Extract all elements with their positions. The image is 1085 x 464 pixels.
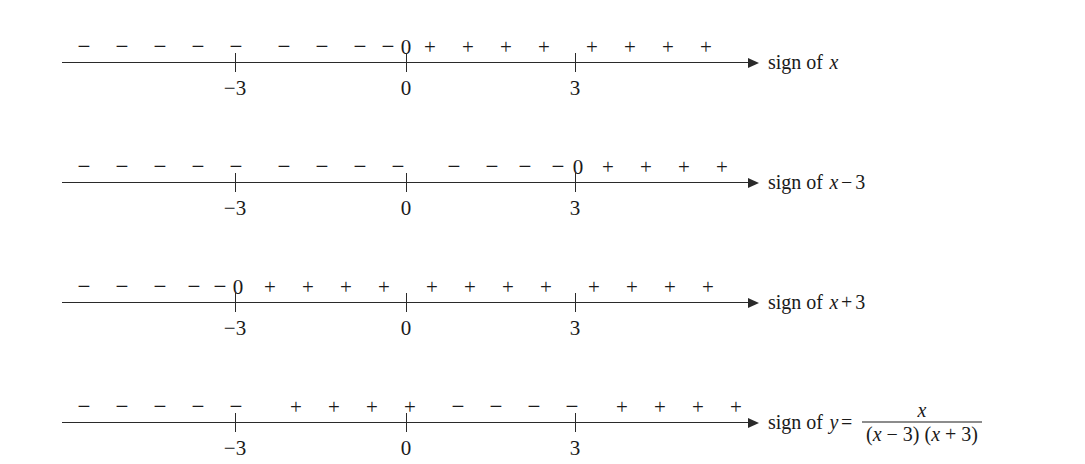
sign-plus: + bbox=[664, 274, 676, 300]
sign-minus: − bbox=[78, 34, 91, 60]
sign-plus: + bbox=[540, 274, 552, 300]
sign-minus: − bbox=[214, 274, 227, 300]
sign-minus: − bbox=[154, 274, 167, 300]
sign-minus: − bbox=[552, 154, 565, 180]
sign-minus: − bbox=[154, 34, 167, 60]
sign-plus: + bbox=[626, 274, 638, 300]
axis-arrowhead-icon bbox=[748, 298, 759, 308]
sign-minus: − bbox=[188, 274, 201, 300]
sign-minus: − bbox=[528, 394, 541, 420]
axis-tick bbox=[575, 293, 576, 312]
label-lead-text: sign of bbox=[768, 51, 823, 74]
sign-minus: − bbox=[192, 34, 205, 60]
sign-plus: + bbox=[730, 394, 742, 420]
sign-plus: + bbox=[654, 394, 666, 420]
sign-chart-sign-of-x-plus-3: −−−−−0++++++++++++−303sign ofx+3 bbox=[0, 262, 1085, 362]
sign-plus: + bbox=[602, 154, 614, 180]
sign-chart-sign-of-y: −−−−−++++−−−−++++−303sign ofy=x(x − 3) (… bbox=[0, 382, 1085, 464]
axis-tick bbox=[575, 413, 576, 432]
label-expr-part: − bbox=[838, 171, 855, 194]
axis-tick bbox=[406, 173, 407, 192]
label-lead-text: sign of bbox=[768, 291, 823, 314]
sign-plus: + bbox=[290, 394, 302, 420]
sign-plus: + bbox=[328, 394, 340, 420]
sign-plus: + bbox=[692, 394, 704, 420]
line-label-sign-of-y: sign ofy=x(x − 3) (x + 3) bbox=[768, 400, 982, 445]
sign-plus: + bbox=[302, 274, 314, 300]
axis-tick bbox=[235, 413, 236, 432]
sign-minus: − bbox=[78, 274, 91, 300]
sign-plus: + bbox=[616, 394, 628, 420]
axis-tick-label: 0 bbox=[401, 318, 412, 339]
sign-plus: + bbox=[502, 274, 514, 300]
number-line-axis: −303 bbox=[62, 62, 750, 64]
sign-minus: − bbox=[116, 154, 129, 180]
line-label-sign-of-x-minus-3: sign ofx−3 bbox=[768, 171, 865, 194]
sign-minus: − bbox=[486, 154, 499, 180]
sign-plus: + bbox=[500, 34, 512, 60]
sign-plus: + bbox=[340, 274, 352, 300]
sign-plus: + bbox=[424, 34, 436, 60]
sign-chart-figure: −−−−−−−−−0++++++++−303sign ofx−−−−−−−−−−… bbox=[0, 0, 1085, 464]
axis-tick-label: −3 bbox=[224, 198, 246, 219]
sign-plus: + bbox=[716, 154, 728, 180]
sign-minus: − bbox=[452, 394, 465, 420]
axis-tick bbox=[235, 53, 236, 72]
sign-minus: − bbox=[116, 34, 129, 60]
label-expr-part: = bbox=[838, 411, 855, 434]
sign-minus: − bbox=[154, 394, 167, 420]
label-expr-part: 3 bbox=[855, 171, 865, 194]
line-label-sign-of-x-plus-3: sign ofx+3 bbox=[768, 291, 865, 314]
sign-minus: − bbox=[230, 394, 243, 420]
sign-minus: − bbox=[316, 154, 329, 180]
line-label-sign-of-x: sign ofx bbox=[768, 51, 838, 74]
sign-minus: − bbox=[230, 154, 243, 180]
number-line-axis: −303 bbox=[62, 182, 750, 184]
sign-plus: + bbox=[702, 274, 714, 300]
sign-minus: − bbox=[78, 394, 91, 420]
axis-arrowhead-icon bbox=[748, 58, 759, 68]
sign-plus: + bbox=[538, 34, 550, 60]
number-line-axis: −303 bbox=[62, 302, 750, 304]
sign-plus: + bbox=[678, 154, 690, 180]
sign-minus: − bbox=[490, 394, 503, 420]
axis-tick bbox=[406, 293, 407, 312]
sign-plus: + bbox=[662, 34, 674, 60]
sign-minus: − bbox=[519, 154, 532, 180]
axis-tick-label: 3 bbox=[570, 438, 581, 459]
fraction-numerator: x bbox=[909, 400, 936, 422]
fraction-denominator: (x − 3) (x + 3) bbox=[862, 423, 982, 445]
axis-arrowhead-icon bbox=[748, 178, 759, 188]
sign-minus: − bbox=[354, 154, 367, 180]
sign-minus: − bbox=[566, 394, 579, 420]
sign-chart-sign-of-x-minus-3: −−−−−−−−−−−−−0++++−303sign ofx−3 bbox=[0, 142, 1085, 242]
axis-tick bbox=[406, 53, 407, 72]
sign-minus: − bbox=[316, 34, 329, 60]
sign-minus: − bbox=[278, 154, 291, 180]
label-expr-part: + bbox=[838, 291, 855, 314]
label-expr-part: x bbox=[829, 171, 838, 194]
sign-plus: + bbox=[588, 274, 600, 300]
label-expr-part: 3 bbox=[855, 291, 865, 314]
label-expr-part: y bbox=[829, 411, 838, 434]
sign-minus: − bbox=[278, 34, 291, 60]
axis-tick-label: −3 bbox=[224, 318, 246, 339]
sign-plus: + bbox=[366, 394, 378, 420]
sign-minus: − bbox=[116, 274, 129, 300]
axis-tick-label: 3 bbox=[570, 318, 581, 339]
sign-plus: + bbox=[586, 34, 598, 60]
axis-tick bbox=[575, 53, 576, 72]
number-line-axis: −303 bbox=[62, 422, 750, 424]
sign-plus: + bbox=[426, 274, 438, 300]
label-expr-part: x bbox=[829, 291, 838, 314]
sign-minus: − bbox=[116, 394, 129, 420]
sign-minus: − bbox=[392, 154, 405, 180]
label-lead-text: sign of bbox=[768, 171, 823, 194]
sign-plus: + bbox=[464, 274, 476, 300]
axis-tick bbox=[406, 413, 407, 432]
axis-tick-label: −3 bbox=[224, 438, 246, 459]
sign-minus: − bbox=[448, 154, 461, 180]
axis-tick-label: −3 bbox=[224, 78, 246, 99]
sign-plus: + bbox=[264, 274, 276, 300]
sign-plus: + bbox=[378, 274, 390, 300]
